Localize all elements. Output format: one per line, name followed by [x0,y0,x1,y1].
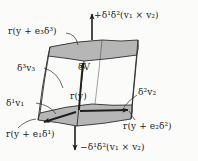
label-bottom-flux: −δ¹δ²(v₁ × v₂) [80,143,145,152]
label-origin-point: r(y) [70,92,87,101]
shaded-bottom-face [38,104,132,126]
leader-d3v3 [44,68,63,88]
label-corner-e1: r(y + e₁δ¹) [6,130,55,139]
label-corner-e3: r(y + e₃δ³) [8,27,57,36]
label-edge-v1: δ¹v₁ [6,99,24,108]
label-edge-v2: δ²v₂ [138,88,156,97]
arrow-v2 [80,110,128,111]
label-volume-element: δV [78,63,90,72]
leader-r-e1 [18,119,36,128]
label-corner-e2: r(y + e₂δ²) [123,122,172,131]
edge-left-back [40,47,50,113]
solid-body [38,40,138,126]
label-top-flux: +δ¹δ²(v₁ × v₂) [94,11,159,20]
shaded-top-face [48,40,138,61]
label-edge-v3: δ³v₃ [17,64,35,73]
volume-element-figure: +δ¹δ²(v₁ × v₂) r(y + e₃δ³) δ³v₃ δV r(y) … [0,0,198,161]
flux-arrows [75,14,92,150]
